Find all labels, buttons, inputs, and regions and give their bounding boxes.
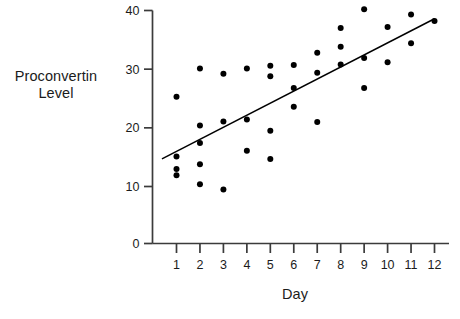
- x-tick-label: 8: [337, 258, 344, 272]
- y-tick-label: 30: [126, 63, 140, 77]
- x-tick-label: 10: [381, 258, 395, 272]
- data-point: [291, 62, 297, 68]
- data-point: [338, 25, 344, 31]
- data-points-group: [174, 6, 438, 192]
- y-tick-label: 0: [133, 237, 140, 251]
- x-tick-label: 11: [405, 258, 418, 272]
- data-point: [244, 148, 250, 154]
- data-point: [267, 73, 273, 79]
- data-point: [432, 18, 438, 24]
- data-point: [385, 59, 391, 65]
- data-point: [338, 44, 344, 50]
- data-point: [197, 181, 203, 187]
- plot-canvas: 010203040123456789101112: [0, 0, 460, 319]
- data-point: [244, 66, 250, 72]
- data-point: [291, 85, 297, 91]
- data-point: [244, 117, 250, 123]
- data-point: [174, 154, 180, 160]
- x-tick-label: 12: [428, 258, 442, 272]
- x-tick-label: 9: [361, 258, 368, 272]
- data-point: [408, 40, 414, 46]
- data-point: [338, 61, 344, 67]
- axes-group: [144, 11, 449, 254]
- y-tick-label: 10: [126, 180, 140, 194]
- y-tick-label: 20: [126, 121, 140, 135]
- data-point: [267, 156, 273, 162]
- y-axis-label-line-1: Proconvertin: [4, 68, 108, 85]
- x-tick-label: 1: [173, 258, 180, 272]
- data-point: [385, 24, 391, 30]
- x-tick-label: 3: [220, 258, 227, 272]
- data-point: [220, 118, 226, 124]
- x-tick-label: 2: [196, 258, 203, 272]
- data-point: [174, 172, 180, 178]
- data-point: [197, 66, 203, 72]
- data-point: [408, 12, 414, 18]
- data-point: [291, 104, 297, 110]
- tick-labels-group: 010203040123456789101112: [126, 4, 442, 271]
- data-point: [314, 50, 320, 56]
- data-point: [314, 119, 320, 125]
- data-point: [220, 186, 226, 192]
- data-point: [197, 122, 203, 128]
- x-tick-label: 4: [243, 258, 250, 272]
- data-point: [361, 85, 367, 91]
- data-point: [174, 166, 180, 172]
- y-axis-label: Proconvertin Level: [4, 68, 108, 102]
- x-tick-label: 5: [267, 258, 274, 272]
- data-point: [361, 55, 367, 61]
- data-point: [314, 70, 320, 76]
- x-axis-label: Day: [240, 286, 350, 302]
- data-point: [267, 128, 273, 134]
- data-point: [174, 94, 180, 100]
- data-point: [267, 63, 273, 69]
- data-point: [197, 161, 203, 167]
- data-point: [197, 140, 203, 146]
- y-axis-label-line-2: Level: [4, 85, 108, 102]
- data-point: [361, 6, 367, 12]
- y-tick-label: 40: [126, 4, 140, 18]
- scatter-plot-figure: 010203040123456789101112 Proconvertin Le…: [0, 0, 460, 319]
- x-tick-label: 7: [314, 258, 321, 272]
- data-point: [220, 71, 226, 77]
- x-tick-label: 6: [290, 258, 297, 272]
- regression-line: [162, 19, 435, 159]
